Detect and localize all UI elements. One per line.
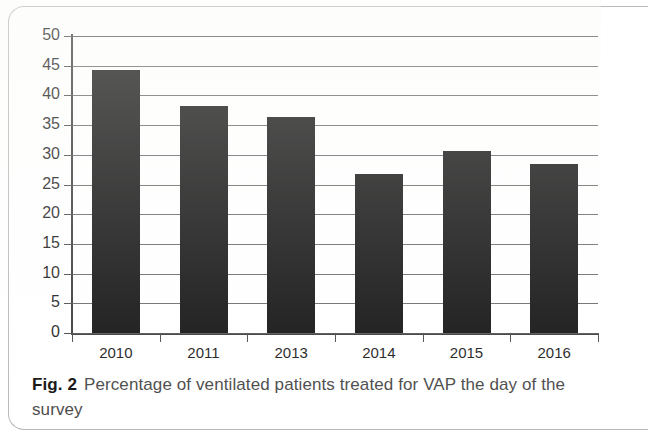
y-axis-tick-label: 10 (2, 264, 60, 282)
bar-2010 (92, 70, 140, 333)
bar-2015 (443, 151, 491, 333)
figure-caption: Fig. 2Percentage of ventilated patients … (32, 372, 572, 422)
x-axis-tick-label-2010: 2010 (72, 344, 160, 361)
x-axis-tick-label-2016: 2016 (510, 344, 598, 361)
x-axis-tick-label-2015: 2015 (423, 344, 511, 361)
x-axis-tick (160, 333, 161, 342)
figure-caption-text: Percentage of ventilated patients treate… (32, 375, 565, 419)
y-axis-tick-label: 15 (2, 234, 60, 252)
bar-2013 (267, 117, 315, 333)
x-axis-tick-label-2013: 2013 (247, 344, 335, 361)
y-axis-tick-label: 5 (2, 293, 60, 311)
y-axis-tick-label: 35 (2, 115, 60, 133)
x-axis-tick-end (598, 333, 599, 342)
x-axis-tick (72, 333, 73, 342)
y-axis-tick-label: 45 (2, 56, 60, 74)
x-axis-tick (335, 333, 336, 342)
x-axis-tick-label-2011: 2011 (160, 344, 248, 361)
bar-2011 (180, 106, 228, 334)
x-axis-tick-label-2014: 2014 (335, 344, 423, 361)
bar-chart-figure: 05101520253035404550 2010201120132014201… (0, 0, 601, 366)
y-axis-tick-label: 20 (2, 204, 60, 222)
bar-2014 (355, 174, 403, 333)
bars-layer (72, 36, 598, 333)
y-axis-tick-label: 40 (2, 85, 60, 103)
x-axis-tick (247, 333, 248, 342)
y-axis-tick-label: 25 (2, 175, 60, 193)
figure-caption-label: Fig. 2 (32, 375, 77, 394)
y-axis-tick-label: 50 (2, 26, 60, 44)
y-axis-tick-label: 30 (2, 145, 60, 163)
x-axis-tick (510, 333, 511, 342)
y-axis-tick-label: 0 (2, 323, 60, 341)
bar-2016 (530, 164, 578, 333)
x-axis-tick (423, 333, 424, 342)
